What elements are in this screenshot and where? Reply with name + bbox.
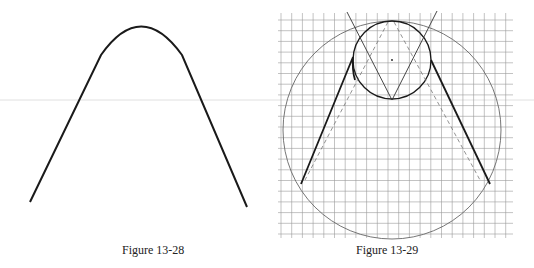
dashed-construction-lines <box>305 22 480 180</box>
tangent-legs <box>301 57 490 184</box>
large-circle <box>283 21 501 239</box>
figure-canvas <box>0 0 534 268</box>
figure-13-28-shape <box>30 27 247 208</box>
figure-13-29-grid <box>278 13 513 238</box>
figure-13-28-caption: Figure 13-28 <box>122 243 184 258</box>
small-circle-center <box>391 59 393 61</box>
figure-13-29-caption: Figure 13-29 <box>356 243 418 258</box>
v-construction-lines <box>347 11 437 100</box>
